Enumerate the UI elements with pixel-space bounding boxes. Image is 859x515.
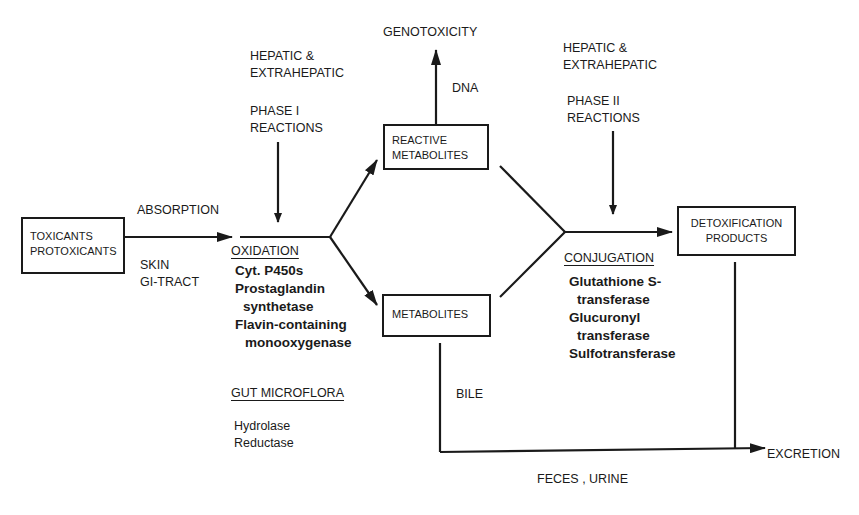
phase1-site-label: HEPATIC & EXTRAHEPATIC	[250, 48, 344, 82]
toxicants-box: TOXICANTS PROTOXICANTS	[21, 217, 125, 274]
routes-label: SKIN GI-TRACT	[140, 257, 199, 291]
metabolites-label: METABOLITES	[392, 148, 487, 163]
metabolites-box-label: METABOLITES	[392, 307, 489, 322]
conjugation-heading: CONJUGATION	[564, 250, 654, 267]
genotoxicity-label: GENOTOXICITY	[383, 24, 477, 41]
metabolites-box: METABOLITES	[382, 294, 491, 337]
oxidation-enzymes: Cyt. P450s Prostaglandin synthetase Flav…	[235, 262, 352, 352]
detoxification-box: DETOXIFICATION PRODUCTS	[677, 206, 796, 256]
bile-label: BILE	[456, 386, 483, 403]
protoxicants-label: PROTOXICANTS	[30, 244, 123, 259]
detoxification-label: DETOXIFICATION	[679, 216, 794, 231]
toxicants-label: TOXICANTS	[30, 229, 123, 244]
products-label: PRODUCTS	[679, 231, 794, 246]
reactive-metabolites-box: REACTIVE METABOLITES	[383, 124, 489, 170]
gut-microflora-enzymes: Hydrolase Reductase	[234, 418, 294, 452]
absorption-label: ABSORPTION	[137, 202, 219, 219]
dna-label: DNA	[452, 80, 478, 97]
phase2-label: PHASE II REACTIONS	[567, 93, 640, 127]
flow-arrows	[0, 0, 859, 515]
feces-urine-label: FECES , URINE	[537, 471, 628, 488]
reactive-label: REACTIVE	[392, 133, 487, 148]
gut-microflora-heading: GUT MICROFLORA	[231, 385, 344, 402]
phase2-site-label: HEPATIC & EXTRAHEPATIC	[563, 40, 657, 74]
phase1-label: PHASE I REACTIONS	[250, 103, 323, 137]
excretion-label: EXCRETION	[767, 446, 840, 463]
conjugation-enzymes: Glutathione S- transferase Glucuronyl tr…	[569, 273, 676, 363]
oxidation-heading: OXIDATION	[231, 243, 299, 260]
